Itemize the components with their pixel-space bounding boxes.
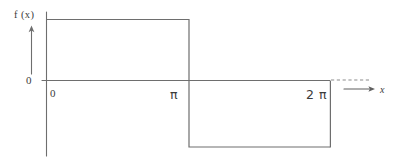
- x-axis-arrow-icon: [344, 86, 375, 92]
- x-tick-label-pi: π: [170, 87, 178, 102]
- y-axis-label: f (x): [14, 9, 34, 21]
- plot-canvas: f (x) 0 0 π 2 π x: [0, 0, 396, 167]
- square-wave-trace: [47, 20, 330, 148]
- y-origin-label: 0: [26, 74, 32, 86]
- x-origin-label: 0: [50, 87, 56, 99]
- square-wave-figure: f (x) 0 0 π 2 π x: [0, 0, 396, 167]
- y-axis-arrow-icon: [29, 26, 35, 75]
- x-axis-label: x: [379, 84, 385, 95]
- x-tick-label-two-pi: 2 π: [306, 87, 327, 102]
